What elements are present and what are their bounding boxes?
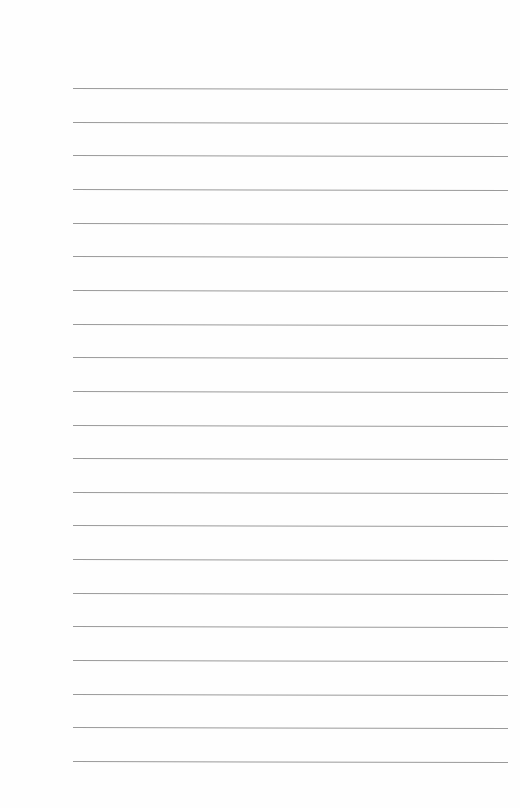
ruled-line — [73, 357, 508, 359]
ruled-line — [73, 525, 508, 527]
ruled-line — [73, 761, 508, 763]
ruled-line — [73, 256, 508, 258]
ruled-line — [73, 122, 508, 124]
ruled-line — [73, 189, 508, 191]
ruled-line — [73, 425, 508, 427]
ruled-line — [73, 324, 508, 326]
ruled-line — [73, 155, 508, 157]
ruled-line — [73, 593, 508, 595]
lined-paper-page — [0, 0, 520, 808]
ruled-line — [73, 223, 508, 225]
ruled-line — [73, 660, 508, 662]
ruled-line — [73, 559, 508, 561]
ruled-line — [73, 626, 508, 628]
ruled-line — [73, 391, 508, 393]
ruled-line — [73, 290, 508, 292]
ruled-line — [73, 88, 508, 90]
ruled-line — [73, 727, 508, 729]
ruled-line — [73, 458, 508, 460]
ruled-line — [73, 694, 508, 696]
ruled-line — [73, 492, 508, 494]
